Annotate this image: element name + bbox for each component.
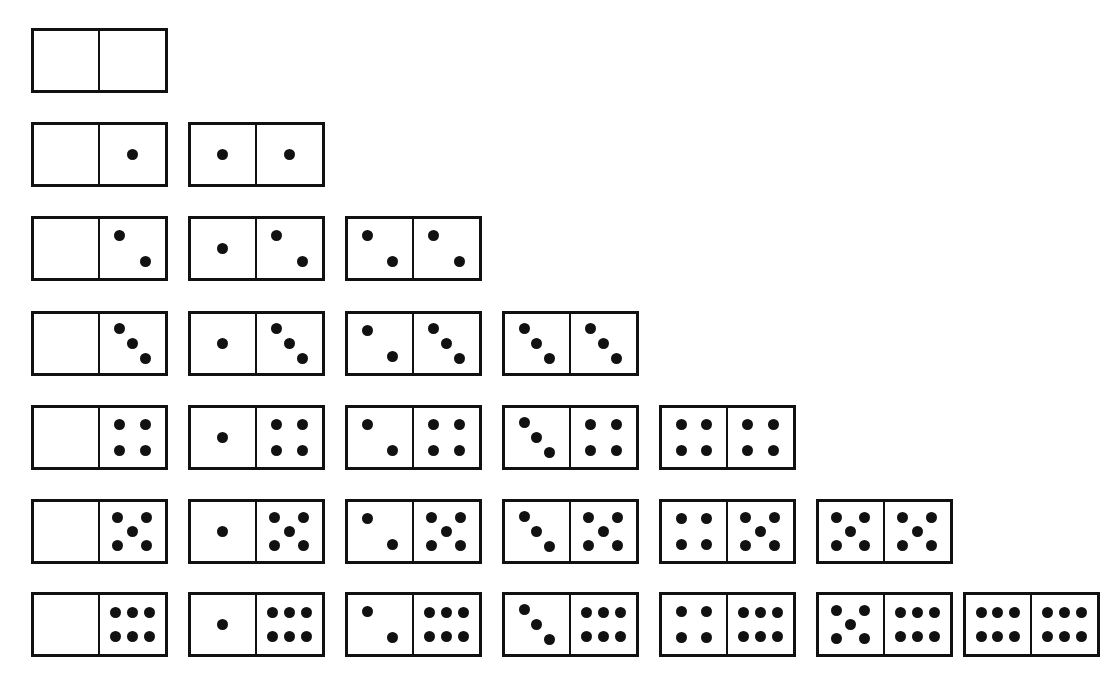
domino-2-5[interactable] [345,499,482,564]
pip-icon [585,419,596,430]
domino-4-6[interactable] [659,592,796,657]
pip-icon [454,445,465,456]
row-fours [0,405,1120,475]
domino-4-5[interactable] [659,499,796,564]
domino-0-1[interactable] [31,122,168,187]
domino-5-5[interactable] [816,499,953,564]
domino-5-5-left-half [819,502,885,561]
pip-icon [929,607,940,618]
domino-0-5[interactable] [31,499,168,564]
domino-0-1-right-half [100,125,166,184]
pip-icon [454,419,465,430]
pip-icon [701,513,712,524]
pip-icon [454,256,465,267]
pip-icon [611,353,622,364]
pip-icon [583,540,594,551]
row-threes [0,311,1120,381]
domino-3-5-right-half [571,502,637,561]
pip-icon [387,351,398,362]
pip-icon [141,512,152,523]
pip-icon [831,512,842,523]
domino-2-4-right-half [414,408,480,467]
pip-icon [976,607,987,618]
pip-icon [740,512,751,523]
pip-icon [701,419,712,430]
domino-1-6[interactable] [188,592,325,657]
domino-6-6-right-half [1032,595,1098,654]
pip-icon [1076,607,1087,618]
pip-icon [144,607,155,618]
domino-1-3-right-half [257,314,323,373]
pip-icon [831,605,842,616]
domino-1-5[interactable] [188,499,325,564]
domino-3-3[interactable] [502,311,639,376]
domino-4-5-right-half [728,502,794,561]
pip-icon [140,353,151,364]
pip-icon [676,632,687,643]
domino-0-4[interactable] [31,405,168,470]
domino-0-5-right-half [100,502,166,561]
pip-icon [284,526,295,537]
pip-icon [1042,631,1053,642]
domino-1-4[interactable] [188,405,325,470]
pip-icon [297,256,308,267]
domino-2-3[interactable] [345,311,482,376]
domino-1-5-left-half [191,502,257,561]
domino-3-6[interactable] [502,592,639,657]
pip-icon [926,540,937,551]
pip-icon [301,607,312,618]
pip-icon [929,631,940,642]
pip-icon [362,230,373,241]
pip-icon [298,512,309,523]
pip-icon [676,445,687,456]
domino-3-3-right-half [571,314,637,373]
domino-2-4[interactable] [345,405,482,470]
pip-icon [615,607,626,618]
pip-icon [297,353,308,364]
pip-icon [531,526,542,537]
domino-0-2-right-half [100,219,166,278]
domino-0-2[interactable] [31,216,168,281]
pip-icon [676,419,687,430]
pip-icon [531,619,542,630]
pip-icon [895,631,906,642]
domino-0-6[interactable] [31,592,168,657]
pip-icon [738,607,749,618]
pip-icon [455,540,466,551]
domino-5-6[interactable] [816,592,953,657]
domino-6-6[interactable] [963,592,1100,657]
pip-icon [612,512,623,523]
domino-5-5-right-half [885,502,951,561]
pip-icon [598,526,609,537]
domino-0-0[interactable] [31,28,168,93]
domino-1-2[interactable] [188,216,325,281]
domino-1-2-right-half [257,219,323,278]
domino-3-4[interactable] [502,405,639,470]
pip-icon [742,419,753,430]
domino-2-2[interactable] [345,216,482,281]
domino-4-4[interactable] [659,405,796,470]
domino-6-6-left-half [966,595,1032,654]
pip-icon [140,445,151,456]
pip-icon [544,353,555,364]
domino-0-3[interactable] [31,311,168,376]
domino-3-5[interactable] [502,499,639,564]
domino-2-6[interactable] [345,592,482,657]
domino-5-6-right-half [885,595,951,654]
pip-icon [585,445,596,456]
domino-1-1[interactable] [188,122,325,187]
domino-2-5-right-half [414,502,480,561]
pip-icon [140,419,151,430]
pip-icon [114,445,125,456]
domino-0-3-left-half [34,314,100,373]
pip-icon [859,605,870,616]
pip-icon [772,631,783,642]
pip-icon [269,512,280,523]
pip-icon [859,633,870,644]
domino-1-3[interactable] [188,311,325,376]
pip-icon [112,540,123,551]
pip-icon [611,419,622,430]
domino-1-3-left-half [191,314,257,373]
pip-icon [701,606,712,617]
pip-icon [769,540,780,551]
